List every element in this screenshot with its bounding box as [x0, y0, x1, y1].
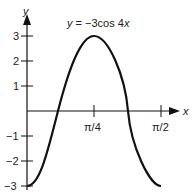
equation-body: = −3cos 4 — [73, 17, 124, 29]
xtick-label-pi4: π/4 — [84, 121, 101, 133]
equation-label: y = −3cos 4x — [66, 17, 130, 29]
ytick-label-2: 2 — [13, 55, 19, 67]
ytick-label-m3: −3 — [4, 180, 17, 192]
equation-x: x — [123, 17, 130, 29]
xtick-label-pi2: π/2 — [152, 121, 169, 133]
x-axis-label: x — [182, 105, 189, 117]
ytick-label-m1: −1 — [6, 130, 19, 142]
y-axis-label: y — [22, 5, 30, 17]
ytick-label-3: 3 — [13, 30, 19, 42]
ytick-label-m2: −2 — [6, 155, 19, 167]
x-axis-arrow-icon — [169, 107, 180, 115]
ytick-label-1: 1 — [13, 80, 19, 92]
cosine-chart: y x 3 2 1 −1 −2 −3 π/4 π/2 y = −3cos 4x — [0, 0, 192, 193]
